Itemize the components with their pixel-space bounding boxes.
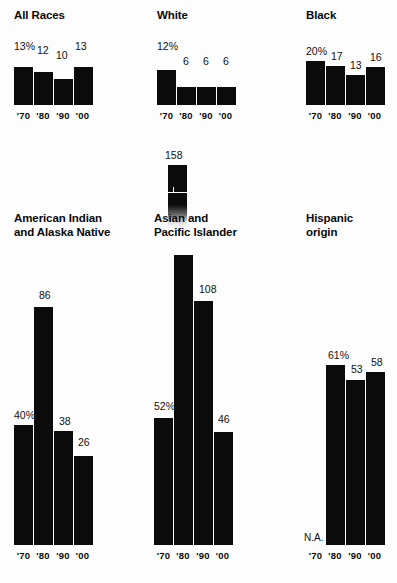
x-tick: '00 (216, 110, 235, 121)
bar-value-label: 20% (306, 45, 327, 57)
bar-value-label: 38 (59, 415, 71, 427)
bar (194, 301, 213, 545)
bar-value-label: 10 (56, 49, 68, 61)
bar-value-label: 12 (37, 44, 49, 56)
bar-value-label: 61% (328, 349, 349, 361)
bar (34, 307, 53, 545)
bar (177, 87, 196, 105)
bar (366, 67, 385, 105)
x-tick: '00 (73, 550, 92, 561)
x-tick: '90 (345, 110, 365, 121)
x-axis-labels-white: '70'80'90'00 (157, 110, 235, 121)
x-axis-labels-asian-pacific-islander: '70'80'90'00 (154, 550, 232, 561)
chart-hispanic-origin: Hispanic origin N.A. 61% 53 58 '70'80'90… (280, 140, 397, 583)
bar (74, 67, 93, 105)
x-tick: '00 (365, 110, 384, 121)
x-tick: '70 (14, 550, 33, 561)
x-tick: '70 (154, 550, 173, 561)
x-tick: '90 (53, 110, 73, 121)
bar-value-label: 46 (218, 413, 230, 425)
bar-value-label: 52% (154, 400, 175, 412)
chart-title-all-races: All Races (14, 9, 65, 23)
bar (14, 67, 33, 105)
plot-area-all-races: 13% 12 10 13 (14, 55, 92, 105)
x-tick: '80 (33, 110, 53, 121)
chart-all-races: All Races 13% 12 10 13 '70'80'90'00 (0, 0, 140, 132)
x-axis-labels-black: '70'80'90'00 (306, 110, 384, 121)
bar-value-label: 17 (331, 50, 343, 62)
bar-overflow-top (168, 165, 187, 192)
bar (326, 365, 345, 545)
x-tick: '70 (306, 550, 325, 561)
bar (197, 87, 216, 105)
chart-title-white: White (157, 9, 188, 23)
bar-value-label: 86 (39, 289, 51, 301)
bar-value-label: 12% (157, 40, 178, 52)
chart-title-american-indian: American Indian and Alaska Native (14, 212, 110, 239)
bar-value-label: 13% (14, 40, 35, 52)
x-tick: '70 (157, 110, 176, 121)
bar (306, 61, 325, 105)
bar-separator (173, 187, 174, 193)
bar-value-label: 26 (78, 436, 90, 448)
x-tick: '90 (53, 550, 73, 561)
x-tick: '90 (193, 550, 213, 561)
x-tick: '90 (345, 550, 365, 561)
x-tick: '00 (73, 110, 92, 121)
chart-asian-pacific-islander: Asian and Pacific Islander 158 52% 108 4… (140, 140, 280, 583)
x-tick: '80 (325, 110, 345, 121)
x-axis-labels-hispanic-origin: '70'80'90'00 (306, 550, 384, 561)
bar (346, 75, 365, 105)
bar-value-label: 16 (370, 51, 382, 63)
x-tick: '90 (196, 110, 216, 121)
plot-area-american-indian: 40% 86 38 26 (14, 305, 92, 545)
bar (34, 72, 53, 105)
x-axis-labels-american-indian: '70'80'90'00 (14, 550, 92, 561)
bar (214, 432, 233, 545)
figure-canvas: All Races 13% 12 10 13 '70'80'90'00 Whit… (0, 0, 397, 583)
bar-value-label: 158 (165, 149, 183, 161)
plot-area-white: 12% 6 6 6 (157, 55, 235, 105)
bar (366, 372, 385, 545)
bar (157, 70, 176, 105)
plot-area-hispanic-origin: N.A. 61% 53 58 (306, 365, 384, 545)
x-tick: '80 (173, 550, 193, 561)
bar (54, 79, 73, 105)
chart-title-hispanic-origin: Hispanic origin (306, 212, 353, 239)
bar-value-label: 6 (203, 55, 209, 67)
bar (154, 418, 173, 545)
chart-title-black: Black (306, 9, 336, 23)
x-tick: '80 (325, 550, 345, 561)
chart-american-indian: American Indian and Alaska Native 40% 86… (0, 140, 140, 583)
chart-title-asian-pacific-islander: Asian and Pacific Islander (154, 212, 237, 239)
bar (74, 456, 93, 545)
bar (174, 255, 193, 545)
bar-value-label: 53 (351, 363, 363, 375)
x-tick: '70 (306, 110, 325, 121)
x-tick: '80 (33, 550, 53, 561)
bar-value-label: 108 (199, 283, 217, 295)
x-tick: '00 (365, 550, 384, 561)
chart-white: White 12% 6 6 6 '70'80'90'00 (140, 0, 280, 132)
bar-value-label: 13 (75, 40, 87, 52)
plot-area-asian-pacific-islander: 52% 108 46 (154, 255, 232, 545)
x-tick: '00 (213, 550, 232, 561)
bar (54, 431, 73, 545)
bar-value-label: 13 (350, 59, 362, 71)
bar (346, 380, 365, 545)
x-axis-labels-all-races: '70'80'90'00 (14, 110, 92, 121)
x-tick: '80 (176, 110, 196, 121)
bar-value-label: 40% (14, 409, 35, 421)
bar-value-label: 58 (371, 356, 383, 368)
not-available-label: N.A. (304, 532, 323, 543)
bar (14, 425, 33, 545)
x-tick: '70 (14, 110, 33, 121)
bar-value-label: 6 (223, 55, 229, 67)
bar-value-label: 6 (183, 55, 189, 67)
bar (326, 66, 345, 105)
chart-black: Black 20% 17 13 16 '70'80'90'00 (280, 0, 397, 132)
bar (217, 87, 236, 105)
plot-area-black: 20% 17 13 16 (306, 46, 384, 105)
